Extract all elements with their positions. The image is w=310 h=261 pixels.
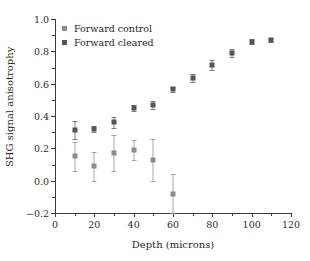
y-tick-label: 0.4 — [34, 111, 49, 122]
y-tick — [51, 181, 55, 182]
legend-label-forward-control: Forward control — [74, 23, 152, 34]
error-bar-cap — [151, 109, 156, 110]
error-bar-cap — [249, 44, 254, 45]
data-point — [171, 191, 176, 196]
data-point — [230, 50, 235, 55]
data-point — [112, 120, 117, 125]
y-tick — [51, 19, 55, 20]
data-point — [171, 87, 176, 92]
x-minor-tick — [75, 213, 76, 216]
data-point — [92, 164, 97, 169]
x-tick — [55, 213, 56, 217]
data-point — [151, 102, 156, 107]
data-point — [72, 154, 77, 159]
error-bar-cap — [131, 140, 136, 141]
x-axis-title: Depth (microns) — [55, 239, 291, 250]
y-axis-line — [55, 19, 56, 213]
error-bar-cap — [171, 213, 176, 214]
y-tick-label: 0.8 — [34, 46, 49, 57]
y-axis-title: SHG signal anisotrophy — [2, 0, 16, 213]
x-minor-tick — [232, 213, 233, 216]
error-bar-cap — [72, 139, 77, 140]
data-point — [92, 126, 97, 131]
y-tick-label: −0.2 — [26, 208, 49, 219]
y-tick — [51, 148, 55, 149]
data-point — [112, 151, 117, 156]
error-bar-cap — [171, 174, 176, 175]
error-bar-cap — [72, 142, 77, 143]
x-minor-tick — [271, 213, 272, 216]
y-minor-tick — [52, 35, 55, 36]
error-bar-cap — [92, 132, 97, 133]
y-tick — [51, 51, 55, 52]
error-bar-cap — [151, 181, 156, 182]
error-bar-cap — [230, 57, 235, 58]
error-bar-cap — [112, 171, 117, 172]
data-point — [269, 38, 274, 43]
legend-label-forward-cleared: Forward cleared — [74, 37, 154, 48]
x-minor-tick — [153, 213, 154, 216]
x-tick — [212, 213, 213, 217]
error-bar-cap — [92, 152, 97, 153]
data-point — [151, 157, 156, 162]
x-tick-label: 80 — [206, 219, 218, 230]
legend-swatch-icon-forward-control — [62, 26, 67, 31]
x-tick — [252, 213, 253, 217]
x-minor-tick — [114, 213, 115, 216]
error-bar-cap — [72, 121, 77, 122]
y-minor-tick — [52, 132, 55, 133]
y-tick-label: 0.2 — [34, 143, 49, 154]
legend-item-forward-control: Forward control — [62, 22, 154, 34]
error-bar-cap — [131, 111, 136, 112]
x-tick-label: 40 — [128, 219, 140, 230]
error-bar-cap — [72, 171, 77, 172]
shg-anisotropy-chart: −0.20.00.20.40.60.81.0 020406080100120 F… — [0, 0, 310, 261]
y-tick — [51, 116, 55, 117]
y-minor-tick — [52, 197, 55, 198]
y-minor-tick — [52, 100, 55, 101]
error-bar-cap — [210, 70, 215, 71]
chart-legend: Forward control Forward cleared — [62, 22, 154, 50]
y-tick — [51, 84, 55, 85]
legend-item-forward-cleared: Forward cleared — [62, 36, 154, 48]
y-tick-label: 0.0 — [34, 175, 49, 186]
x-tick — [94, 213, 95, 217]
x-tick-label: 100 — [243, 219, 261, 230]
y-tick-label: 1.0 — [34, 14, 49, 25]
error-bar-cap — [112, 128, 117, 129]
error-bar-cap — [210, 60, 215, 61]
legend-swatch-icon-forward-cleared — [62, 40, 67, 45]
error-bar-cap — [112, 117, 117, 118]
x-tick-label: 60 — [167, 219, 179, 230]
y-tick-label: 0.6 — [34, 78, 49, 89]
data-point — [210, 63, 215, 68]
data-point — [131, 147, 136, 152]
error-bar-cap — [112, 135, 117, 136]
error-bar-cap — [151, 139, 156, 140]
x-tick-label: 20 — [88, 219, 100, 230]
error-bar-cap — [190, 82, 195, 83]
data-point — [72, 127, 77, 132]
x-tick-label: 120 — [282, 219, 300, 230]
y-minor-tick — [52, 165, 55, 166]
data-point — [190, 76, 195, 81]
x-tick-label: 0 — [52, 219, 58, 230]
x-tick — [291, 213, 292, 217]
error-bar-cap — [131, 160, 136, 161]
data-point — [131, 105, 136, 110]
x-minor-tick — [193, 213, 194, 216]
data-point — [249, 39, 254, 44]
x-tick — [134, 213, 135, 217]
error-bar-cap — [92, 181, 97, 182]
error-bar-cap — [171, 92, 176, 93]
y-minor-tick — [52, 68, 55, 69]
